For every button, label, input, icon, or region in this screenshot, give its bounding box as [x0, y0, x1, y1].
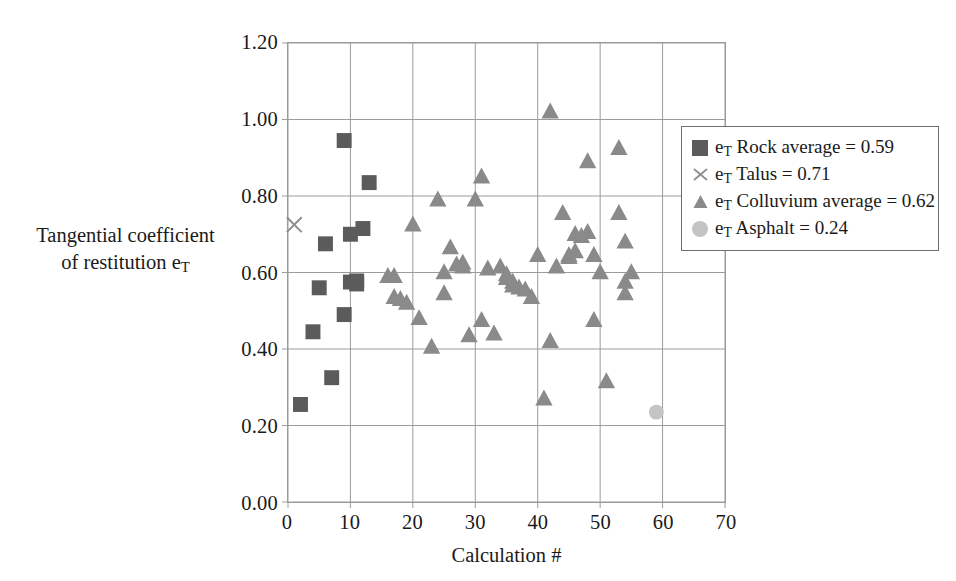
- x-axis-title: Calculation #: [287, 545, 726, 566]
- x-tick-label: 10: [320, 512, 380, 533]
- data-point-square: [312, 280, 327, 295]
- data-point-triangle: [623, 263, 640, 279]
- data-point-triangle: [467, 191, 484, 207]
- x-tick-label: 0: [257, 512, 317, 533]
- circle-marker: [691, 219, 710, 238]
- data-point-triangle: [410, 309, 427, 325]
- data-point-triangle: [610, 139, 627, 155]
- data-point-triangle: [423, 338, 440, 354]
- y-axis-title: Tangential coefficient of restitution eT: [18, 222, 233, 278]
- legend-item[interactable]: eT Asphalt = 0.24: [691, 215, 928, 242]
- y-tick-label: 1.20: [216, 32, 278, 53]
- data-point-triangle: [404, 215, 421, 231]
- y-axis-title-line2: of restitution eT: [61, 251, 190, 273]
- x-tick-label: 50: [571, 512, 631, 533]
- data-point-triangle: [542, 103, 559, 119]
- y-tick-label: 1.00: [216, 109, 278, 130]
- y-tick-label: 0.80: [216, 185, 278, 206]
- data-point-triangle: [429, 191, 446, 207]
- data-point-triangle: [585, 311, 602, 327]
- data-point-square: [324, 370, 339, 385]
- data-point-triangle: [542, 332, 559, 348]
- data-points-layer: [288, 43, 725, 502]
- y-axis-tick-labels: 0.000.200.400.600.801.001.20: [208, 42, 278, 503]
- legend-item-label: eT Asphalt = 0.24: [715, 218, 848, 240]
- data-point-triangle: [610, 204, 627, 220]
- data-point-square: [318, 236, 333, 251]
- data-point-triangle: [435, 284, 452, 300]
- data-point-triangle: [535, 389, 552, 405]
- plot-area: [287, 42, 726, 503]
- data-point-triangle: [554, 204, 571, 220]
- data-point-cross: [287, 217, 302, 232]
- triangle-marker: [691, 192, 710, 211]
- data-point-triangle: [442, 238, 459, 254]
- legend-item[interactable]: eT Colluvium average = 0.62: [691, 188, 928, 215]
- x-tick-label: 20: [382, 512, 442, 533]
- data-point-triangle: [616, 233, 633, 249]
- y-tick-label: 0.00: [216, 493, 278, 514]
- data-point-triangle: [591, 263, 608, 279]
- legend: eT Rock average = 0.59eT Talus = 0.71eT …: [681, 126, 939, 251]
- y-tick-label: 0.20: [216, 416, 278, 437]
- x-axis-tick-labels: 010203040506070: [287, 512, 726, 542]
- scatter-plot-figure: Tangential coefficient of restitution eT…: [0, 0, 956, 581]
- y-tick-label: 0.40: [216, 339, 278, 360]
- square-marker: [691, 138, 710, 157]
- legend-item[interactable]: eT Rock average = 0.59: [691, 134, 928, 161]
- data-point-triangle: [529, 246, 546, 262]
- y-tick-label: 0.60: [216, 262, 278, 283]
- data-point-triangle: [598, 372, 615, 388]
- legend-item-label: eT Rock average = 0.59: [715, 137, 894, 159]
- data-point-circle: [649, 405, 664, 420]
- data-point-square: [293, 397, 308, 412]
- data-point-triangle: [460, 326, 477, 342]
- data-point-triangle: [473, 311, 490, 327]
- data-point-triangle: [473, 168, 490, 184]
- data-point-square: [362, 175, 377, 190]
- data-point-square: [306, 324, 321, 339]
- data-point-square: [337, 307, 352, 322]
- x-tick-label: 60: [633, 512, 693, 533]
- legend-item-label: eT Talus = 0.71: [715, 164, 831, 186]
- data-point-square: [355, 221, 370, 236]
- x-tick-label: 30: [445, 512, 505, 533]
- data-point-triangle: [585, 246, 602, 262]
- data-point-triangle: [579, 152, 596, 168]
- x-tick-label: 70: [696, 512, 756, 533]
- x-tick-label: 40: [508, 512, 568, 533]
- y-axis-title-line1: Tangential coefficient: [36, 224, 215, 246]
- legend-item-label: eT Colluvium average = 0.62: [715, 191, 935, 213]
- legend-item[interactable]: eT Talus = 0.71: [691, 161, 928, 188]
- cross-marker: [691, 165, 710, 184]
- data-point-square: [349, 273, 364, 288]
- data-point-square: [337, 133, 352, 148]
